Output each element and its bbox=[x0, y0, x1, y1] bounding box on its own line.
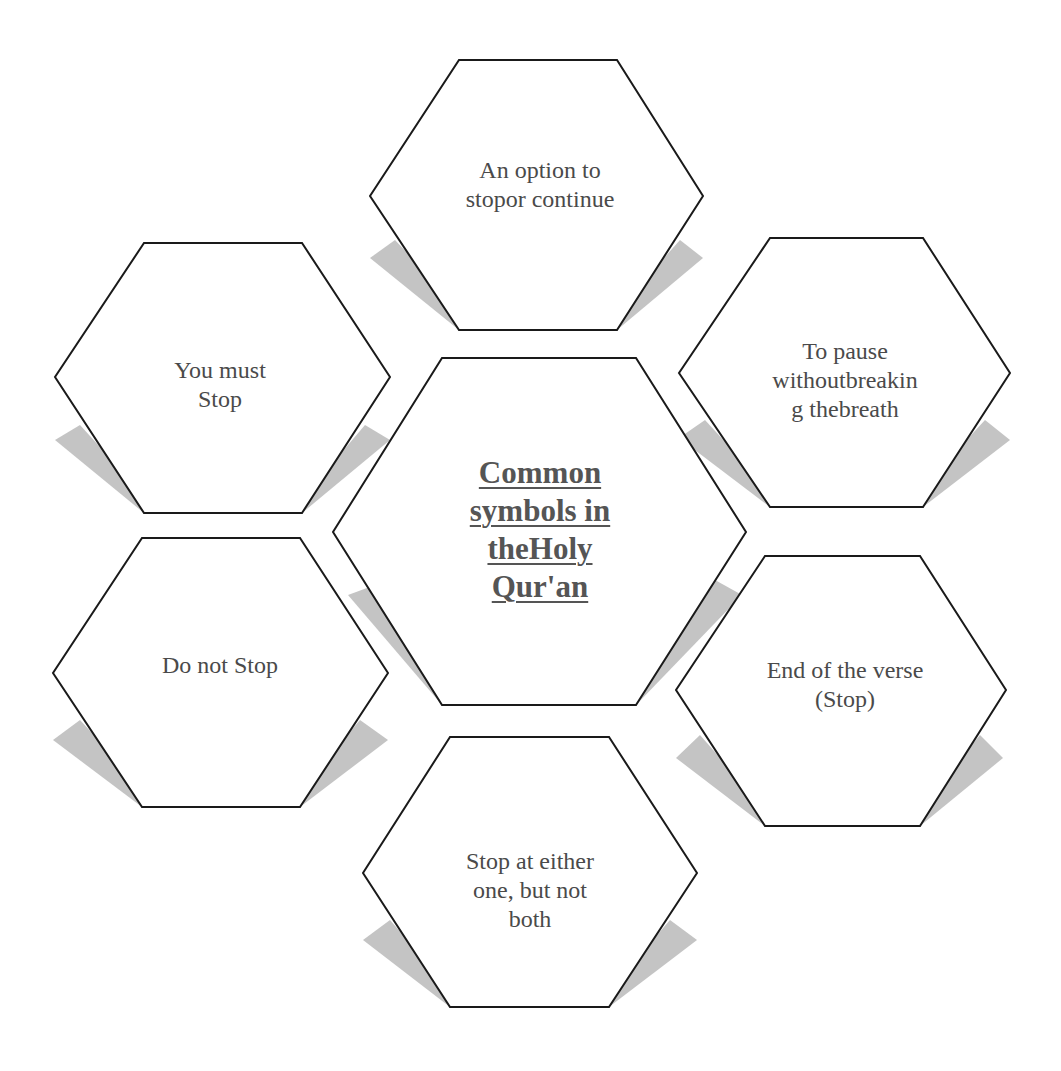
node-bottom-left-label: Do not Stop bbox=[100, 645, 340, 685]
node-text-line: g thebreath bbox=[772, 395, 917, 424]
node-bottom-label: Stop at either one, but not both bbox=[410, 840, 650, 940]
node-text-line: both bbox=[466, 905, 594, 934]
node-top-right-label: To pause withoutbreakin g thebreath bbox=[725, 330, 965, 430]
node-text-line: To pause bbox=[772, 337, 917, 366]
center-title-line: theHoly bbox=[470, 530, 610, 568]
node-bottom-right-label: End of the verse (Stop) bbox=[715, 650, 975, 720]
node-text-line: You must bbox=[174, 356, 266, 385]
node-text-line: Stop at either bbox=[466, 847, 594, 876]
node-top-label: An option to stopor continue bbox=[420, 150, 660, 220]
node-top-left-label: You must Stop bbox=[100, 350, 340, 420]
node-text-line: stopor continue bbox=[466, 185, 615, 214]
node-text-line: (Stop) bbox=[767, 685, 924, 714]
center-title-line: symbols in bbox=[470, 492, 610, 530]
node-text-line: End of the verse bbox=[767, 656, 924, 685]
node-text-line: An option to bbox=[466, 156, 615, 185]
center-title-line: Common bbox=[470, 454, 610, 492]
center-title-line: Qur'an bbox=[470, 568, 610, 606]
node-text-line: Stop bbox=[174, 385, 266, 414]
node-text-line: one, but not bbox=[466, 876, 594, 905]
center-title: Common symbols in theHoly Qur'an bbox=[400, 420, 680, 640]
node-text-line: Do not Stop bbox=[162, 651, 278, 680]
node-text-line: withoutbreakin bbox=[772, 366, 917, 395]
